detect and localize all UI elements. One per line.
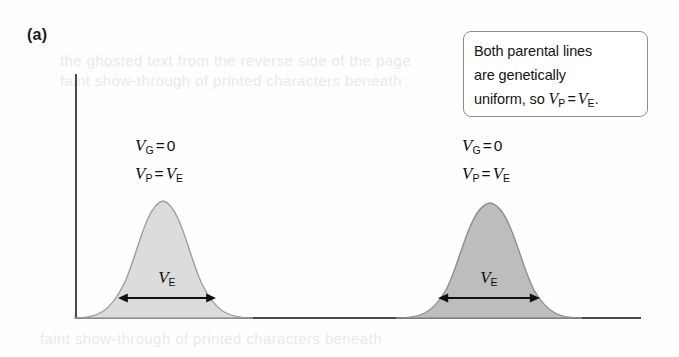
label-vp-left: VP=VE	[135, 162, 183, 190]
ve-arrow-label-left: VE	[118, 268, 216, 288]
callout-line-3-prefix: uniform, so	[474, 91, 549, 107]
ve-width-arrow-left: VE	[118, 268, 216, 308]
callout-period: .	[595, 91, 599, 107]
callout-ve-term: V	[578, 90, 588, 107]
vg-equals-right: =	[481, 137, 494, 154]
callout-line-2: are genetically	[474, 67, 566, 83]
ve-term-right: V	[493, 164, 503, 183]
ve-arrow-subscript-right: E	[491, 276, 498, 288]
ve-term-left: V	[166, 164, 176, 183]
ve-width-arrow-right: VE	[438, 268, 540, 308]
label-vp-right: VP=VE	[462, 162, 510, 190]
ve-subscript-right: E	[503, 171, 510, 183]
vg-term-left: V	[135, 136, 145, 155]
ve-arrow-subscript-left: E	[169, 276, 176, 288]
vg-value-left: 0	[167, 137, 176, 154]
vp-equals-left: =	[153, 165, 166, 182]
vg-subscript-left: G	[145, 144, 153, 156]
callout-vp-term: V	[549, 90, 559, 107]
ve-arrow-label-right: VE	[438, 268, 540, 288]
vg-value-right: 0	[494, 137, 503, 154]
callout-box: Both parental lines are genetically unif…	[463, 31, 648, 117]
callout-line-1: Both parental lines	[474, 43, 592, 59]
vp-subscript-right: P	[472, 171, 479, 183]
ve-arrow-term-right: V	[480, 268, 490, 287]
label-vg-left: VG=0	[135, 134, 183, 162]
vp-term-left: V	[135, 164, 145, 183]
ve-arrow-term-left: V	[158, 268, 168, 287]
vg-subscript-right: G	[472, 144, 480, 156]
vp-term-right: V	[462, 164, 472, 183]
vp-subscript-left: P	[145, 171, 152, 183]
double-headed-arrow-icon-right	[438, 292, 540, 304]
variance-labels-right: VG=0 VP=VE	[462, 134, 510, 189]
variance-labels-left: VG=0 VP=VE	[135, 134, 183, 189]
label-vg-right: VG=0	[462, 134, 510, 162]
vg-term-right: V	[462, 136, 472, 155]
figure-panel-a: the ghosted text from the reverse side o…	[0, 0, 679, 357]
callout-text: Both parental lines are genetically unif…	[474, 39, 638, 115]
callout-equals: =	[565, 91, 577, 107]
vp-equals-right: =	[480, 165, 493, 182]
vg-equals-left: =	[154, 137, 167, 154]
callout-ve-subscript: E	[588, 97, 595, 109]
ve-subscript-left: E	[176, 171, 183, 183]
double-headed-arrow-icon-left	[118, 292, 216, 304]
